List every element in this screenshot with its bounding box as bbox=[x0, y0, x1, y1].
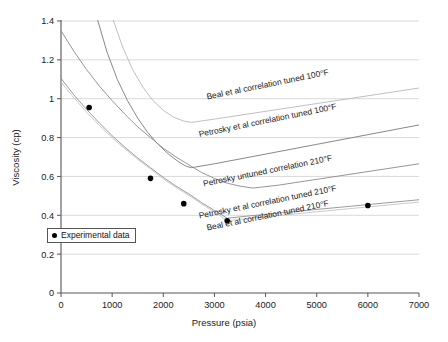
y-tick-label: 0.8 bbox=[41, 133, 54, 143]
x-tick-label: 5000 bbox=[306, 300, 326, 310]
x-axis-title-text: Pressure (psia) bbox=[192, 317, 256, 328]
series-label: Petrosky untuned correlation 210°F bbox=[202, 153, 333, 189]
data-point bbox=[148, 176, 154, 182]
experimental-data-marker-icon bbox=[52, 233, 57, 238]
y-tick-label: 0 bbox=[49, 288, 54, 298]
series-label: Petrosky et al correlation tuned 100°F bbox=[198, 101, 337, 139]
y-tick-label: 0.6 bbox=[41, 172, 54, 182]
legend-label-experimental-data: Experimental data bbox=[61, 231, 130, 240]
data-point bbox=[86, 105, 92, 111]
viscosity-vs-pressure-chart: 00.20.40.60.811.21.401000200030004000500… bbox=[0, 0, 448, 342]
y-tick-label: 1 bbox=[49, 94, 54, 104]
series-label-text: Beal et al correlation tuned 100°F bbox=[206, 67, 330, 102]
y-tick-label: 0.2 bbox=[41, 250, 54, 260]
x-tick-label: 2000 bbox=[153, 300, 173, 310]
x-tick-label: 3000 bbox=[204, 300, 224, 310]
y-tick-label: 1.4 bbox=[41, 16, 54, 26]
x-axis-title: Pressure (psia) bbox=[0, 317, 448, 328]
series-curve bbox=[61, 78, 419, 218]
series-curve bbox=[112, 17, 419, 122]
x-tick-label: 1000 bbox=[102, 300, 122, 310]
x-tick-label: 7000 bbox=[409, 300, 429, 310]
data-point bbox=[224, 218, 230, 224]
series-curve bbox=[97, 17, 419, 168]
y-axis-title-text: Viscosity (cp) bbox=[10, 93, 21, 223]
y-tick-label: 0.4 bbox=[41, 211, 54, 221]
curves-group bbox=[61, 17, 419, 221]
data-point bbox=[181, 201, 187, 207]
chart-figure: 00.20.40.60.811.21.401000200030004000500… bbox=[0, 0, 448, 342]
legend-box: Experimental data bbox=[47, 228, 136, 243]
series-label: Beal et al correlation tuned 100°F bbox=[206, 67, 330, 102]
series-label-text: Petrosky et al correlation tuned 100°F bbox=[198, 101, 337, 139]
y-axis-title: Viscosity (cp) bbox=[2, 0, 24, 342]
data-point bbox=[365, 203, 371, 209]
series-label-text: Petrosky untuned correlation 210°F bbox=[202, 153, 333, 189]
x-tick-label: 4000 bbox=[255, 300, 275, 310]
x-tick-label: 6000 bbox=[358, 300, 378, 310]
x-tick-label: 0 bbox=[58, 300, 63, 310]
y-tick-label: 1.2 bbox=[41, 55, 54, 65]
series-curve bbox=[61, 31, 419, 188]
